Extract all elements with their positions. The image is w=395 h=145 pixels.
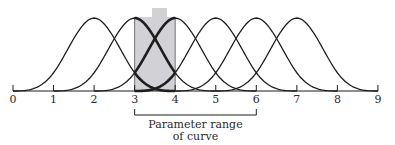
- bracket-label-line2: of curve: [173, 130, 218, 143]
- basis-curve-6: [216, 18, 378, 91]
- shade-tab: [152, 8, 167, 18]
- basis-curves: [13, 18, 378, 91]
- bracket-line: [135, 109, 257, 115]
- basis-curve-5: [175, 18, 337, 91]
- parameter-range-bracket: [135, 109, 257, 115]
- tick-label-5: 5: [212, 93, 219, 106]
- tick-label-0: 0: [10, 93, 17, 106]
- tick-label-8: 8: [334, 93, 341, 106]
- tick-label-4: 4: [172, 93, 179, 106]
- tick-label-6: 6: [253, 93, 260, 106]
- tick-label-1: 1: [50, 93, 57, 106]
- tick-label-9: 9: [374, 93, 381, 106]
- b-spline-diagram: 0123456789 Parameter range of curve: [0, 0, 395, 145]
- tick-label-7: 7: [293, 93, 300, 106]
- tick-label-2: 2: [91, 93, 98, 106]
- tick-label-3: 3: [131, 93, 138, 106]
